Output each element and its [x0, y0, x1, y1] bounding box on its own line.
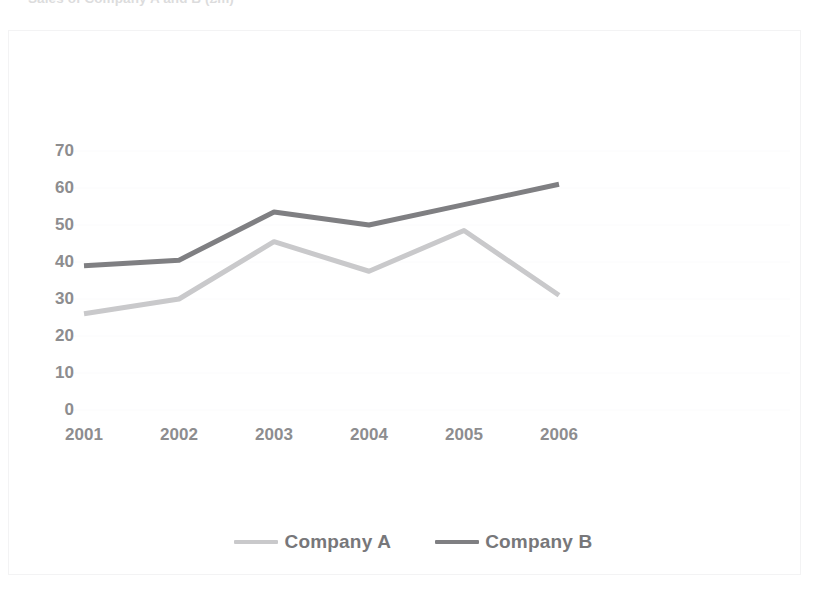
x-axis-tick-label: 2003 — [229, 424, 319, 446]
legend-line-swatch-icon — [435, 540, 479, 544]
x-axis-tick-label: 2006 — [514, 424, 604, 446]
x-axis-tick-label: 2004 — [324, 424, 414, 446]
x-axis-tick-labels: 200120022003200420052006 — [0, 424, 827, 450]
legend-line-swatch-icon — [234, 540, 278, 544]
legend-label: Company A — [284, 532, 391, 552]
y-axis-tick-label: 60 — [30, 179, 74, 196]
gridlines — [70, 151, 790, 410]
x-axis-tick-label: 2005 — [419, 424, 509, 446]
y-axis-tick-label: 20 — [30, 327, 74, 344]
y-axis-tick-label: 30 — [30, 290, 74, 307]
y-axis-tick-label: 10 — [30, 364, 74, 381]
chart-legend: Company ACompany B — [0, 527, 827, 557]
x-axis-tick-label: 2002 — [134, 424, 224, 446]
y-axis-tick-label: 40 — [30, 253, 74, 270]
line-chart: Sales of Company A and B (£m) 7060504030… — [0, 0, 827, 598]
plot-area: 706050403020100 200120022003200420052006 — [0, 0, 827, 598]
y-axis-tick-label: 50 — [30, 216, 74, 233]
series-line-company-a — [84, 231, 559, 314]
legend-item[interactable]: Company B — [435, 532, 592, 552]
y-axis-tick-labels: 706050403020100 — [26, 0, 74, 598]
y-axis-tick-label: 0 — [30, 401, 74, 418]
x-axis-tick-label: 2001 — [39, 424, 129, 446]
series-layer — [0, 0, 827, 598]
legend-item[interactable]: Company A — [234, 532, 391, 552]
legend-label: Company B — [485, 532, 592, 552]
series-paths — [84, 184, 559, 313]
y-axis-tick-label: 70 — [30, 142, 74, 159]
